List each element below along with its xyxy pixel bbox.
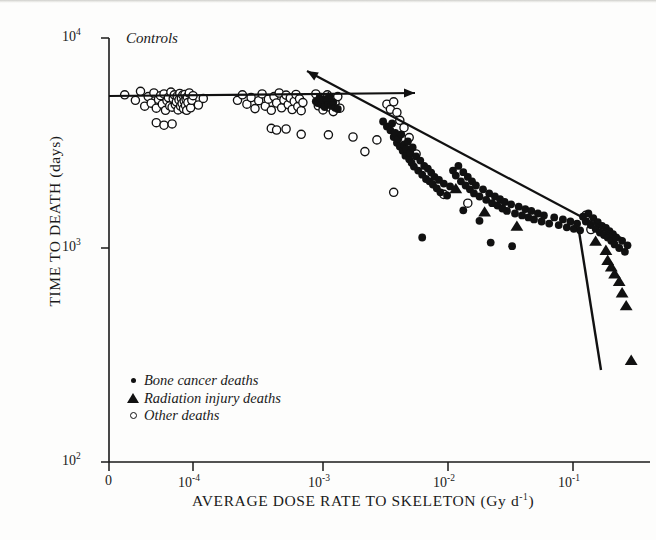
legend-label: Radiation injury deaths bbox=[144, 390, 281, 408]
data-point-filled-circle bbox=[567, 218, 575, 226]
legend-label: Other deaths bbox=[144, 407, 219, 425]
data-point-open-circle bbox=[187, 104, 195, 112]
data-point-filled-circle bbox=[418, 234, 426, 242]
data-point-open-circle bbox=[299, 99, 307, 107]
y-tick-label: 104 bbox=[62, 27, 81, 45]
data-point-open-circle bbox=[324, 131, 332, 139]
data-point-filled-triangle bbox=[511, 220, 524, 230]
data-point-filled-circle bbox=[404, 138, 412, 146]
open-circle-icon bbox=[122, 412, 144, 419]
x-tick-label: 10-4 bbox=[178, 473, 200, 491]
legend-item-radiation-injury: Radiation injury deaths bbox=[122, 390, 281, 408]
data-point-filled-triangle bbox=[478, 206, 491, 216]
data-point-open-circle bbox=[168, 120, 176, 128]
x-axis-title-tail: ) bbox=[528, 492, 534, 509]
data-point-filled-circle bbox=[459, 206, 467, 214]
scatter-plot-canvas bbox=[0, 0, 656, 540]
data-point-filled-circle bbox=[397, 130, 405, 138]
y-axis-title: TIME TO DEATH (days) bbox=[46, 106, 64, 336]
legend-item-other-deaths: Other deaths bbox=[122, 407, 281, 425]
dose-response-regression-line bbox=[307, 71, 625, 240]
filled-circle-icon bbox=[122, 378, 144, 383]
data-point-open-circle bbox=[131, 96, 139, 104]
data-point-open-circle bbox=[349, 133, 357, 141]
x-tick-label: 10-2 bbox=[433, 473, 455, 491]
data-point-open-circle bbox=[390, 188, 398, 196]
filled-triangle-icon bbox=[122, 393, 144, 403]
data-point-filled-triangle bbox=[625, 355, 638, 365]
data-point-filled-circle bbox=[540, 212, 548, 220]
data-point-open-circle bbox=[373, 136, 381, 144]
data-point-filled-circle bbox=[487, 239, 495, 247]
data-point-open-circle bbox=[393, 108, 401, 116]
data-point-open-circle bbox=[267, 106, 275, 114]
data-point-filled-circle bbox=[455, 162, 463, 170]
data-point-open-circle bbox=[152, 119, 160, 127]
data-point-filled-circle bbox=[503, 207, 511, 215]
data-point-filled-circle bbox=[545, 220, 553, 228]
legend-item-bone-cancer: Bone cancer deaths bbox=[122, 372, 281, 390]
data-point-filled-triangle bbox=[620, 300, 633, 310]
data-point-open-circle bbox=[160, 121, 168, 129]
x-axis-title: AVERAGE DOSE RATE TO SKELETON (Gy d-1) bbox=[192, 492, 534, 510]
x-tick-label: 0 bbox=[105, 473, 112, 489]
data-point-open-circle bbox=[297, 130, 305, 138]
chart-legend: Bone cancer deaths Radiation injury deat… bbox=[122, 372, 281, 425]
data-point-filled-circle bbox=[388, 120, 396, 128]
figure-panel: TIME TO DEATH (days) AVERAGE DOSE RATE T… bbox=[0, 0, 656, 540]
y-tick-label: 102 bbox=[62, 451, 81, 469]
radiation-injury-steep-line bbox=[578, 225, 601, 370]
data-point-open-circle bbox=[136, 87, 144, 95]
data-point-open-circle bbox=[390, 98, 398, 106]
data-point-open-circle bbox=[273, 126, 281, 134]
x-axis-title-text: AVERAGE DOSE RATE TO SKELETON (Gy d bbox=[192, 492, 519, 509]
data-point-filled-circle bbox=[508, 242, 516, 250]
data-point-open-circle bbox=[464, 199, 472, 207]
data-point-filled-circle bbox=[437, 188, 445, 196]
data-point-filled-circle bbox=[334, 105, 342, 113]
data-point-open-circle bbox=[251, 105, 259, 113]
data-point-open-circle bbox=[361, 148, 369, 156]
data-point-filled-circle bbox=[409, 144, 417, 152]
data-point-filled-triangle bbox=[589, 235, 602, 245]
data-point-filled-triangle bbox=[600, 245, 613, 255]
data-point-open-circle bbox=[297, 107, 305, 115]
data-point-open-circle bbox=[282, 125, 290, 133]
data-point-filled-circle bbox=[507, 200, 515, 208]
data-point-filled-circle bbox=[476, 193, 484, 201]
data-point-filled-triangle bbox=[616, 287, 629, 297]
x-tick-label: 10-1 bbox=[558, 473, 580, 491]
legend-label: Bone cancer deaths bbox=[144, 372, 258, 390]
data-point-filled-circle bbox=[624, 241, 632, 249]
controls-annotation: Controls bbox=[126, 30, 178, 47]
data-point-filled-circle bbox=[472, 182, 480, 190]
data-point-filled-circle bbox=[511, 210, 519, 218]
data-point-filled-circle bbox=[550, 214, 558, 222]
x-tick-label: 10-3 bbox=[308, 473, 330, 491]
plateau-right-arrowhead bbox=[404, 88, 415, 97]
data-point-filled-circle bbox=[476, 217, 484, 225]
y-tick-label: 103 bbox=[62, 237, 81, 255]
data-points-layer bbox=[121, 87, 638, 365]
data-point-filled-circle bbox=[559, 216, 567, 224]
